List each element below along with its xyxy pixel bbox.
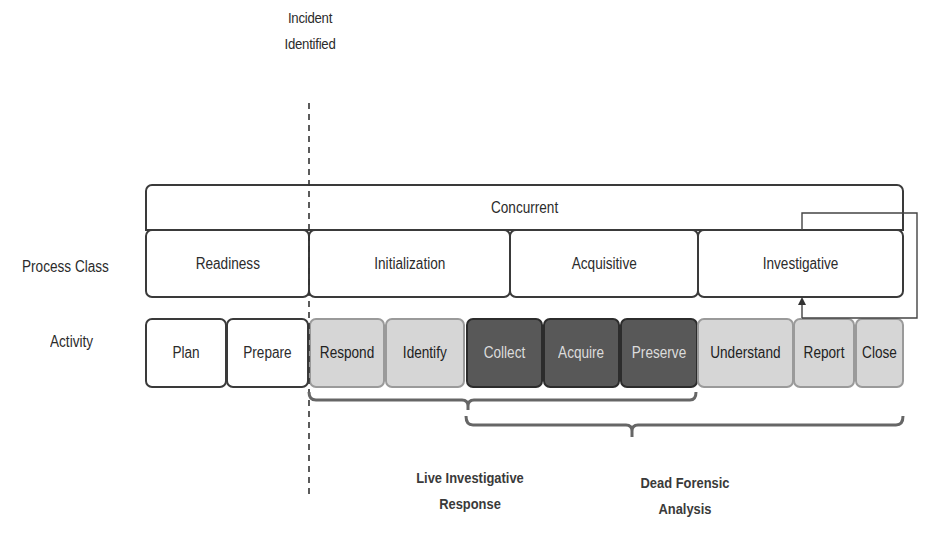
process-class-label: Readiness xyxy=(195,255,259,273)
process-class-row-label: Process Class xyxy=(22,258,109,276)
live-investigative-response-label: Live Investigative Response xyxy=(410,465,530,517)
activity-identify: Identify xyxy=(385,318,465,388)
activity-label: Close xyxy=(862,344,897,362)
process-class-investigative: Investigative xyxy=(697,229,904,298)
process-class-label: Acquisitive xyxy=(571,255,636,273)
concurrent-label: Concurrent xyxy=(491,199,558,217)
dead-forensic-bracket xyxy=(466,416,903,437)
activity-understand: Understand xyxy=(697,318,794,388)
process-class-initialization: Initialization xyxy=(308,229,511,298)
activity-label: Preserve xyxy=(632,344,686,362)
dead-forensic-analysis-label: Dead Forensic Analysis xyxy=(629,470,741,522)
process-class-label: Investigative xyxy=(763,255,839,273)
activity-preserve: Preserve xyxy=(620,318,698,388)
activity-prepare: Prepare xyxy=(226,318,309,388)
group-label-line2: Analysis xyxy=(629,496,741,522)
activity-label: Identify xyxy=(403,344,447,362)
group-label-line1: Dead Forensic xyxy=(629,470,741,496)
activity-label: Collect xyxy=(484,344,526,362)
activity-label: Plan xyxy=(172,344,199,362)
activity-row-label: Activity xyxy=(50,333,93,351)
live-response-bracket xyxy=(309,392,696,410)
milestone-line1: Incident xyxy=(275,5,345,31)
concurrent-bar: Concurrent xyxy=(145,184,904,231)
activity-label: Report xyxy=(804,344,845,362)
activity-acquire: Acquire xyxy=(543,318,620,388)
arrow-up-icon xyxy=(798,297,806,305)
activity-label: Acquire xyxy=(558,344,604,362)
activity-respond: Respond xyxy=(309,318,385,388)
process-class-readiness: Readiness xyxy=(145,229,310,298)
activity-plan: Plan xyxy=(145,318,227,388)
process-class-label: Initialization xyxy=(374,255,445,273)
group-label-line1: Live Investigative xyxy=(410,465,530,491)
activity-label: Understand xyxy=(710,344,780,362)
activity-label: Respond xyxy=(320,344,374,362)
incident-identified-label: Incident Identified xyxy=(270,5,350,57)
activity-collect: Collect xyxy=(466,318,543,388)
activity-label: Prepare xyxy=(243,344,291,362)
group-label-line2: Response xyxy=(410,491,530,517)
process-class-acquisitive: Acquisitive xyxy=(509,229,699,298)
milestone-line2: Identified xyxy=(275,31,345,57)
activity-report: Report xyxy=(793,318,855,388)
activity-close: Close xyxy=(855,318,904,388)
